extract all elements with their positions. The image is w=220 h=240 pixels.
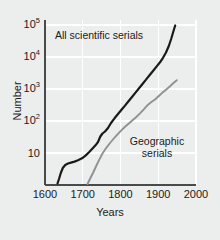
chart-figure: 105 104 103 102 10 1600 1700 1800 1900 2… bbox=[0, 0, 220, 240]
annotation-geographic-serials: Geographic serials bbox=[126, 136, 188, 159]
y-axis-label: Number bbox=[11, 61, 23, 141]
x-tick-label-1700: 1700 bbox=[63, 189, 103, 200]
x-tick-label-2000: 2000 bbox=[176, 189, 216, 200]
x-tick-label-1900: 1900 bbox=[138, 189, 178, 200]
annotation-geographic-line2: serials bbox=[142, 147, 172, 159]
x-tick-label-1800: 1800 bbox=[101, 189, 141, 200]
annotation-all-scientific-serials: All scientific serials bbox=[55, 30, 143, 42]
annotation-geographic-line1: Geographic bbox=[130, 135, 184, 147]
series-line-all-scientific-serials bbox=[58, 26, 176, 184]
x-axis-label: Years bbox=[0, 206, 220, 218]
y-tick-label-1e5: 105 bbox=[4, 19, 40, 30]
x-tick-label-1600: 1600 bbox=[25, 189, 65, 200]
y-tick-label-10: 10 bbox=[4, 148, 40, 159]
